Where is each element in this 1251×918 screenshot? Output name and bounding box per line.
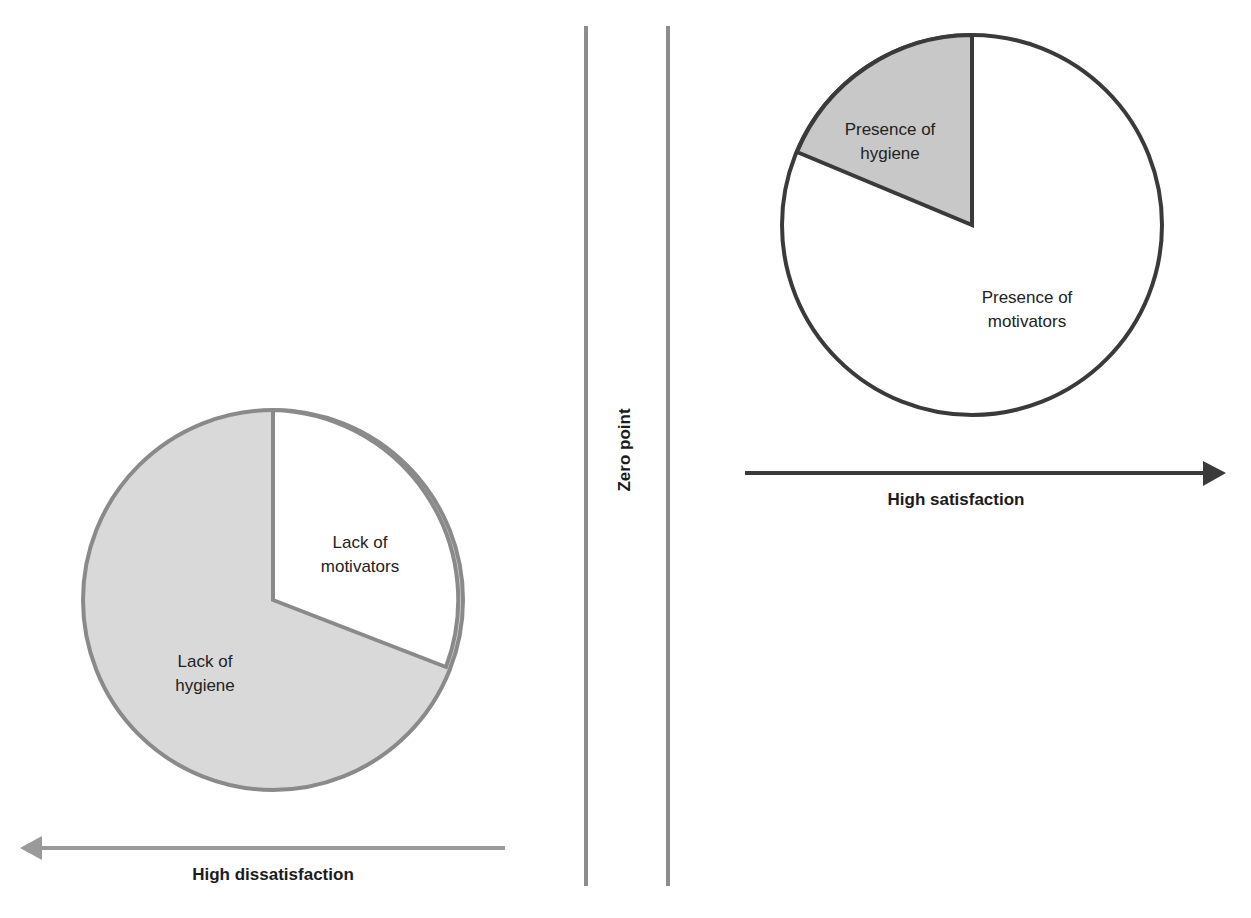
right-motivators-label: Presence of motivators [962,286,1092,334]
high-dissatisfaction-label: High dissatisfaction [163,865,383,885]
high-satisfaction-label: High satisfaction [856,490,1056,510]
label-line: motivators [962,310,1092,334]
left-hygiene-label: Lack of hygiene [150,650,260,698]
label-line: hygiene [150,674,260,698]
right-hygiene-label: Presence of hygiene [830,118,950,166]
label-line: Presence of [830,118,950,142]
label-line: Lack of [150,650,260,674]
label-line: motivators [300,555,420,579]
label-line: Presence of [962,286,1092,310]
label-line: Lack of [300,531,420,555]
dissatisfaction-arrow [20,836,505,860]
left-pie-chart [83,410,463,790]
zero-point-label: Zero point [615,400,639,500]
satisfaction-arrow [745,461,1226,486]
label-line: hygiene [830,142,950,166]
right-pie-chart [782,35,1162,415]
left-motivators-label: Lack of motivators [300,531,420,579]
